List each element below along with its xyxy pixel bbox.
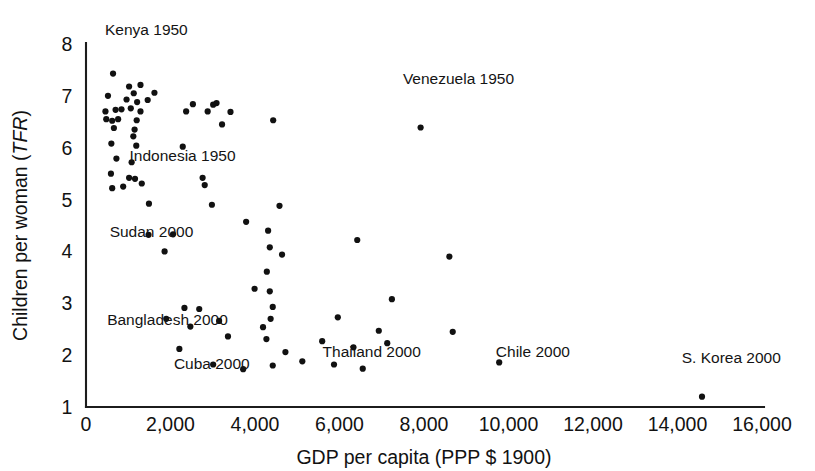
data-point (126, 175, 132, 181)
data-point (450, 329, 456, 335)
data-point (109, 118, 115, 124)
data-point (270, 117, 276, 123)
data-point (151, 90, 157, 96)
y-tick-labels-group: 12345678 (62, 33, 73, 418)
data-point (137, 108, 143, 114)
data-point (109, 185, 115, 191)
data-point (112, 107, 118, 113)
data-point (331, 361, 337, 367)
data-point (118, 106, 124, 112)
data-point (219, 121, 225, 127)
data-point (263, 336, 269, 342)
data-point (120, 184, 126, 190)
data-point (108, 171, 114, 177)
data-point (131, 126, 137, 132)
data-point (270, 304, 276, 310)
point-annotation-label: S. Korea 2000 (682, 349, 781, 366)
data-point (111, 125, 117, 131)
data-point (183, 108, 189, 114)
data-point (200, 175, 206, 181)
x-tick-label: 12,000 (563, 413, 623, 435)
data-point (376, 328, 382, 334)
y-tick-label: 1 (62, 396, 73, 418)
plot-area: 12345678 02,0004,0006,0008,00010,00012,0… (0, 0, 815, 471)
data-point (134, 99, 140, 105)
data-point (276, 203, 282, 209)
y-tick-label: 6 (62, 137, 73, 159)
data-point (260, 324, 266, 330)
data-point (131, 90, 137, 96)
data-point (176, 346, 182, 352)
data-point (418, 124, 424, 130)
data-point (105, 93, 111, 99)
data-point (128, 105, 134, 111)
data-point (110, 70, 116, 76)
data-point (335, 314, 341, 320)
y-tick-label: 8 (62, 33, 73, 55)
data-point (123, 96, 129, 102)
data-point (103, 116, 109, 122)
data-point (270, 362, 276, 368)
y-tick-label: 4 (62, 240, 73, 262)
data-point (389, 296, 395, 302)
y-tick-label: 3 (62, 292, 73, 314)
point-annotation-label: Sudan 2000 (110, 223, 194, 240)
data-point (264, 269, 270, 275)
data-point (354, 237, 360, 243)
point-annotation-label: Kenya 1950 (105, 21, 188, 38)
data-point (268, 316, 274, 322)
x-tick-label: 0 (81, 413, 92, 435)
data-point (699, 394, 705, 400)
x-tick-label: 4,000 (231, 413, 280, 435)
point-annotation-label: Venezuela 1950 (403, 70, 515, 87)
x-tick-label: 6,000 (315, 413, 364, 435)
data-point (225, 333, 231, 339)
scatter-chart: 12345678 02,0004,0006,0008,00010,00012,0… (0, 0, 815, 471)
data-point (279, 251, 285, 257)
data-point (267, 288, 273, 294)
y-tick-label: 7 (62, 85, 73, 107)
data-point (209, 202, 215, 208)
point-annotation-label: Cuba 2000 (174, 355, 250, 372)
data-point (139, 180, 145, 186)
data-point (115, 116, 121, 122)
x-tick-label: 16,000 (732, 413, 792, 435)
data-point (299, 358, 305, 364)
data-point (446, 254, 452, 260)
data-point (190, 101, 196, 107)
data-point (282, 349, 288, 355)
data-point (108, 140, 114, 146)
data-point (130, 133, 136, 139)
y-axis-title: Children per woman (TFR) (9, 110, 31, 341)
data-point (132, 176, 138, 182)
x-tick-label: 8,000 (400, 413, 449, 435)
x-tick-labels-group: 02,0004,0006,0008,00010,00012,00014,0001… (81, 413, 792, 435)
data-point (213, 100, 219, 106)
x-tick-label: 14,000 (648, 413, 708, 435)
data-point (265, 228, 271, 234)
data-point (126, 83, 132, 89)
point-annotation-label: Bangladesh 2000 (107, 311, 228, 328)
point-annotation-label: Indonesia 1950 (130, 147, 236, 164)
data-point (145, 97, 151, 103)
y-tick-label: 2 (62, 344, 73, 366)
x-axis-title: GDP per capita (PPP $ 1900) (296, 446, 551, 468)
data-point (146, 201, 152, 207)
point-annotation-label: Thailand 2000 (323, 343, 422, 360)
data-point (243, 219, 249, 225)
x-tick-label: 10,000 (479, 413, 539, 435)
data-point (267, 244, 273, 250)
x-tick-label: 2,000 (146, 413, 195, 435)
data-point (102, 108, 108, 114)
data-point (137, 82, 143, 88)
data-point (227, 109, 233, 115)
data-point (205, 108, 211, 114)
point-annotation-label: Chile 2000 (496, 343, 570, 360)
data-point (360, 366, 366, 372)
data-point (113, 156, 119, 162)
y-tick-label: 5 (62, 189, 73, 211)
data-point (202, 182, 208, 188)
data-point (134, 117, 140, 123)
data-point (251, 286, 257, 292)
point-annotations-group: Kenya 1950Indonesia 1950Sudan 2000Bangla… (105, 21, 781, 372)
